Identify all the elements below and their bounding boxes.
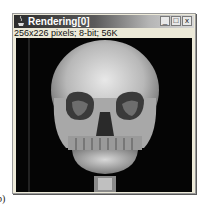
- rendering-canvas[interactable]: [16, 38, 192, 192]
- image-window: Rendering[0] _ □ x 256x226 pixels; 8-bit…: [12, 13, 196, 194]
- java-cup-icon: [17, 16, 25, 27]
- window-title: Rendering[0]: [28, 15, 90, 28]
- title-bar[interactable]: Rendering[0] _ □ x: [14, 15, 194, 28]
- window-controls: _ □ x: [160, 16, 192, 26]
- minimize-button[interactable]: _: [160, 16, 170, 26]
- maximize-button[interactable]: □: [171, 16, 181, 26]
- image-info-text: 256x226 pixels; 8-bit; 56K: [14, 28, 118, 38]
- figure-label: b): [0, 193, 5, 204]
- close-button[interactable]: x: [182, 16, 192, 26]
- artifact-line: [28, 38, 30, 192]
- skull-rendering: [16, 38, 192, 192]
